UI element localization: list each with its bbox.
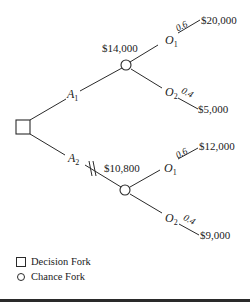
outcome-upper-o1-label: O1 [165,33,178,49]
legend-label: Decision Fork [31,255,91,269]
payoff-lower-o1: $12,000 [199,140,235,152]
edge-a1-upper [80,68,122,91]
edge-upper-o2-end [178,98,198,109]
legend-label: Chance Fork [31,270,85,284]
edge-a2-lower [30,134,65,155]
chance-node-upper-circle-icon [121,60,131,70]
outcome-lower-o1-label: O1 [164,161,177,177]
alternative-a1-label: A1 [66,87,78,103]
probability-upper-o2: 0.4 [180,85,195,100]
probability-upper-o1: 0.6 [174,19,189,34]
probability-lower-o2: 0.4 [182,212,197,227]
legend-item-chance-fork: Chance Fork [16,270,91,284]
payoff-lower-o2: $9,000 [200,229,231,241]
edge-lower-o2 [130,194,162,213]
outcome-lower-o2-label: O2 [165,211,178,227]
chance-node-lower-circle-icon [120,185,130,195]
legend: Decision Fork Chance Fork [16,255,91,285]
expected-value-a2: $10,800 [104,162,140,174]
bottom-divider [0,299,250,302]
expected-value-a1: $14,000 [102,42,138,54]
edge-lower-o2-end [179,224,199,235]
alternative-a2-label: A2 [67,151,79,167]
legend-item-decision-fork: Decision Fork [16,255,91,269]
decision-node-square-icon [16,120,30,134]
circle-icon [17,273,25,281]
outcome-upper-o2-label: O2 [165,85,178,101]
pruned-branch-marker [89,161,96,176]
payoff-upper-o1: $20,000 [201,14,237,26]
square-icon [16,257,26,267]
payoff-upper-o2: $5,000 [198,103,229,115]
edge-a1-lower [30,99,66,120]
edge-upper-o2 [131,69,162,88]
probability-lower-o1: 0.6 [174,146,189,161]
